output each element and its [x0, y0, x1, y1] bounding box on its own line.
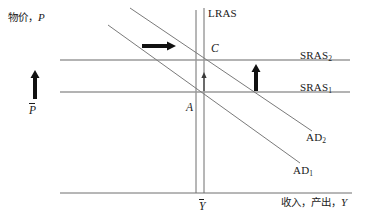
output-level-tick-label: Y	[199, 197, 205, 213]
y-axis-label-sep: ，	[28, 11, 38, 23]
sras1-curve-label-text: SRAS	[300, 81, 328, 93]
point-a-label: A	[186, 102, 193, 114]
x-axis-label-sep-1: ，	[301, 196, 311, 208]
equilibrium-move-up-arrow-icon	[201, 72, 206, 91]
x-axis-label-sep-2: ，	[331, 196, 341, 208]
sras2-curve-label-text: SRAS	[300, 49, 328, 61]
sras1-curve-label: SRAS1	[300, 82, 332, 95]
price-level-up-arrow-icon	[31, 70, 40, 99]
p-bar-label: P	[29, 105, 36, 117]
ad1-curve-label-sub: 1	[309, 169, 313, 178]
lras-curve-label: LRAS	[208, 8, 237, 21]
sras2-curve-label: SRAS2	[300, 50, 332, 63]
price-level-tick-label: P	[29, 101, 36, 117]
ad2-curve-label: AD2	[306, 132, 326, 145]
ad1-curve-label: AD1	[293, 165, 313, 178]
ad1-curve-label-text: AD	[293, 164, 309, 176]
y-bar-label: Y	[199, 201, 205, 213]
ad-shift-right-arrow-icon	[142, 42, 176, 51]
x-axis-label-cn-2: 产出	[311, 196, 331, 208]
point-c-label: C	[211, 43, 219, 55]
sras1-curve-label-sub: 1	[328, 86, 332, 95]
x-axis-label: 收入，产出，Y	[281, 197, 347, 208]
ad2-curve-label-sub: 2	[322, 136, 326, 145]
x-axis-label-cn-1: 收入	[281, 196, 301, 208]
diagram-canvas	[0, 0, 366, 217]
y-axis-label: 物价，P	[8, 12, 45, 23]
lras-curve-label-text: LRAS	[208, 7, 237, 19]
y-axis-label-var: P	[38, 11, 45, 23]
sras2-curve-label-sub: 2	[328, 54, 332, 63]
y-axis-label-cn: 物价	[8, 11, 28, 23]
sras-shift-up-arrow-icon	[252, 64, 261, 91]
ad2-curve-label-text: AD	[306, 131, 322, 143]
x-axis-label-var: Y	[341, 196, 347, 208]
ad2-curve	[130, 8, 312, 131]
ad-as-diagram: 物价，P 收入，产出，Y P Y LRAS SRAS2 SRAS1 AD2 AD…	[0, 0, 366, 217]
